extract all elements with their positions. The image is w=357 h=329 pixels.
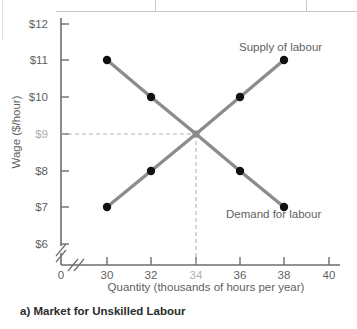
y-tick-label-7: $7 (8, 201, 48, 213)
x-tick-label-38: 38 (264, 269, 304, 281)
demand-point-36-8 (236, 167, 244, 175)
supply-point-38-11 (280, 56, 288, 64)
demand-point-30-11 (103, 56, 111, 64)
figure-caption: a) Market for Unskilled Labour (20, 305, 186, 317)
x-tick-label-36: 36 (220, 269, 260, 281)
chart-figure: $12 $11 $10 $9 $8 $7 $6 0 30 32 34 36 38… (0, 0, 357, 329)
plot-area: $12 $11 $10 $9 $8 $7 $6 0 30 32 34 36 38… (0, 0, 357, 329)
x-tick-label-34: 34 (176, 269, 216, 281)
x-tick-label-30: 30 (87, 269, 127, 281)
supply-point-36-10 (236, 93, 244, 101)
equilibrium-marker (193, 131, 200, 138)
demand-curve-label: Demand for labour (226, 208, 321, 220)
x-tick-label-32: 32 (131, 269, 171, 281)
demand-point-32-10 (147, 93, 155, 101)
x-tick-label-0: 0 (41, 269, 81, 281)
supply-point-30-7 (103, 203, 111, 211)
y-axis-title: Wage ($/hour) (10, 72, 22, 192)
y-tick-label-12: $12 (8, 18, 48, 30)
y-tick-label-6: $6 (8, 238, 48, 250)
supply-curve-label: Supply of labour (239, 41, 322, 53)
x-tick-label-40: 40 (309, 269, 349, 281)
y-tick-label-11: $11 (8, 54, 48, 66)
supply-point-32-8 (147, 167, 155, 175)
x-axis-title: Quantity (thousands of hours per year) (56, 281, 356, 293)
